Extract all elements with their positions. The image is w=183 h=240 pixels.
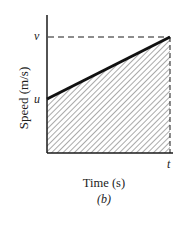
t-tick-label: t (167, 157, 170, 172)
hatched-area (47, 37, 170, 153)
v-tick-label: v (34, 29, 39, 44)
y-axis-label: Speed (m/s) (16, 58, 32, 138)
figure-caption: (b) (0, 192, 183, 207)
x-axis-label: Time (s) (0, 176, 183, 191)
u-tick-label: u (34, 92, 40, 107)
